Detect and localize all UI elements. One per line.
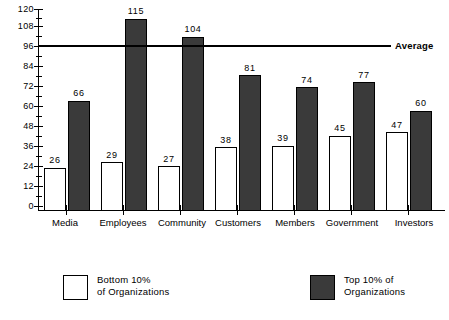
- bar-community-top: [182, 10, 204, 211]
- bar-rect: [329, 136, 351, 211]
- bar-rect: [296, 87, 318, 211]
- x-category-label: Government: [316, 218, 388, 228]
- average-line: [38, 45, 391, 47]
- bar-community-bottom: [158, 10, 180, 211]
- value-label: 74: [296, 76, 318, 85]
- bar-customers-top: [239, 10, 261, 211]
- value-label: 27: [158, 155, 180, 164]
- value-label: 104: [180, 25, 206, 34]
- legend-label-line1: Bottom 10%: [97, 274, 169, 286]
- plot-area: 120 108 96 84 72 60 48 36 24 12 0: [0, 0, 449, 240]
- bar-customers-bottom: [215, 10, 237, 211]
- value-label: 47: [386, 121, 408, 130]
- average-label: Average: [395, 41, 434, 51]
- value-label: 45: [329, 124, 351, 133]
- legend-label-line1: Top 10% of: [344, 274, 405, 286]
- legend-item-bottom: Bottom 10% of Organizations: [63, 274, 169, 300]
- legend-label-top: Top 10% of Organizations: [344, 274, 405, 298]
- bar-employees-bottom: [101, 10, 123, 211]
- legend-label-line2: Organizations: [344, 286, 405, 298]
- value-label: 39: [272, 134, 294, 143]
- chart-legend: Bottom 10% of Organizations Top 10% of O…: [0, 262, 449, 320]
- bar-rect: [410, 111, 432, 211]
- bars-layer: [0, 0, 449, 211]
- x-category-label: Investors: [383, 218, 445, 228]
- bar-chart: 120 108 96 84 72 60 48 36 24 12 0: [0, 0, 449, 320]
- bar-rect: [182, 37, 204, 211]
- value-label: 26: [44, 156, 66, 165]
- bar-members-top: [296, 10, 318, 211]
- bar-rect: [125, 19, 147, 212]
- x-category-label: Employees: [89, 218, 157, 228]
- legend-label-bottom: Bottom 10% of Organizations: [97, 274, 169, 298]
- bar-rect: [68, 101, 90, 212]
- value-label: 66: [68, 89, 90, 98]
- bar-members-bottom: [272, 10, 294, 211]
- bar-media-bottom: [44, 10, 66, 211]
- bar-rect: [272, 146, 294, 211]
- value-label: 60: [410, 99, 432, 108]
- x-category-label: Customers: [206, 218, 270, 228]
- value-label: 115: [123, 7, 149, 16]
- filled-swatch-icon: [310, 275, 335, 300]
- hollow-swatch-icon: [63, 275, 88, 300]
- bar-government-bottom: [329, 10, 351, 211]
- value-label: 38: [215, 136, 237, 145]
- bar-rect: [158, 166, 180, 211]
- bar-rect: [239, 75, 261, 211]
- bar-rect: [353, 82, 375, 211]
- x-category-label: Media: [36, 218, 94, 228]
- bar-employees-top: [125, 10, 147, 211]
- bar-rect: [101, 162, 123, 211]
- bar-rect: [215, 147, 237, 211]
- legend-label-line2: of Organizations: [97, 286, 169, 298]
- bar-rect: [386, 132, 408, 211]
- legend-item-top: Top 10% of Organizations: [310, 274, 405, 300]
- bar-rect: [44, 168, 66, 212]
- value-label: 29: [101, 151, 123, 160]
- value-label: 81: [239, 64, 261, 73]
- bar-media-top: [68, 10, 90, 211]
- value-label: 77: [353, 71, 375, 80]
- bar-government-top: [353, 10, 375, 211]
